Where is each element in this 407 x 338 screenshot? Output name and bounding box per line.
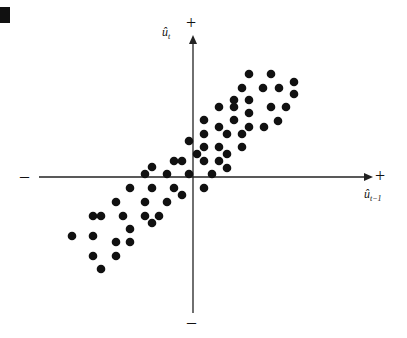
data-point (170, 184, 179, 193)
data-point (238, 143, 247, 152)
data-point (223, 164, 232, 173)
x-minus-sign: – (20, 167, 29, 185)
data-point (208, 170, 217, 179)
data-point (126, 225, 135, 234)
data-point (112, 252, 121, 261)
data-point (267, 70, 276, 79)
data-point (148, 184, 157, 193)
data-point (245, 70, 254, 79)
data-point (185, 170, 194, 179)
y-axis-arrow-icon (189, 35, 197, 44)
data-point (126, 238, 135, 247)
data-point (259, 84, 268, 93)
data-point (185, 137, 194, 146)
data-point (89, 212, 98, 221)
scatter-plot (0, 0, 407, 338)
data-point (274, 117, 283, 126)
y-axis-label: ût (162, 25, 170, 41)
data-points (68, 70, 299, 274)
data-point (178, 157, 187, 166)
data-point (89, 232, 98, 241)
data-point (148, 163, 157, 172)
data-point (267, 103, 276, 112)
data-point (215, 103, 224, 112)
data-point (215, 143, 224, 152)
data-point (178, 191, 187, 200)
data-point (200, 143, 209, 152)
data-point (245, 96, 254, 105)
x-axis-label-sub: t−1 (370, 194, 382, 203)
y-axis-label-sub: t (168, 32, 170, 41)
data-point (163, 170, 172, 179)
data-point (193, 150, 202, 159)
data-point (223, 150, 232, 159)
data-point (126, 184, 135, 193)
x-axis-arrow-icon (364, 173, 373, 181)
data-point (141, 212, 150, 221)
data-point (141, 198, 150, 207)
data-point (238, 130, 247, 139)
data-point (200, 130, 209, 139)
x-axis-label: ût−1 (364, 187, 382, 203)
data-point (97, 265, 106, 274)
axes (39, 35, 373, 313)
data-point (245, 109, 254, 118)
data-point (200, 184, 209, 193)
data-point (230, 103, 239, 112)
y-minus-sign: – (187, 313, 196, 331)
data-point (223, 130, 232, 139)
data-point (170, 157, 179, 166)
data-point (215, 157, 224, 166)
data-point (112, 198, 121, 207)
data-point (200, 116, 209, 125)
data-point (89, 252, 98, 261)
data-point (275, 84, 284, 93)
data-point (163, 198, 172, 207)
data-point (260, 123, 269, 132)
data-point (141, 170, 150, 179)
data-point (200, 157, 209, 166)
data-point (97, 212, 106, 221)
data-point (155, 212, 164, 221)
data-point (119, 212, 128, 221)
x-plus-sign: + (375, 167, 385, 185)
data-point (112, 238, 121, 247)
data-point (290, 78, 299, 87)
data-point (68, 232, 77, 241)
data-point (230, 116, 239, 125)
data-point (245, 123, 254, 132)
y-plus-sign: + (186, 14, 196, 32)
data-point (215, 123, 224, 132)
data-point (282, 103, 291, 112)
data-point (290, 90, 299, 99)
data-point (238, 84, 247, 93)
data-point (148, 219, 157, 228)
